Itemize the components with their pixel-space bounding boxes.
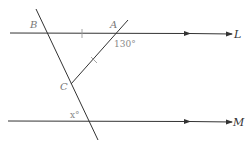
transversal-BC xyxy=(36,9,98,140)
line-M xyxy=(8,121,232,122)
point-label-B: B xyxy=(29,19,37,30)
segment-CA xyxy=(71,20,128,84)
line-label-L: L xyxy=(233,28,241,41)
point-label-A: A xyxy=(109,19,117,30)
angle-label-x: x° xyxy=(70,110,80,120)
angle-label-130: 130° xyxy=(114,39,136,49)
point-label-C: C xyxy=(60,81,68,92)
geometry-diagram: B A C 130° x° L M xyxy=(0,0,251,145)
line-label-M: M xyxy=(232,116,245,129)
line-L xyxy=(10,33,232,34)
